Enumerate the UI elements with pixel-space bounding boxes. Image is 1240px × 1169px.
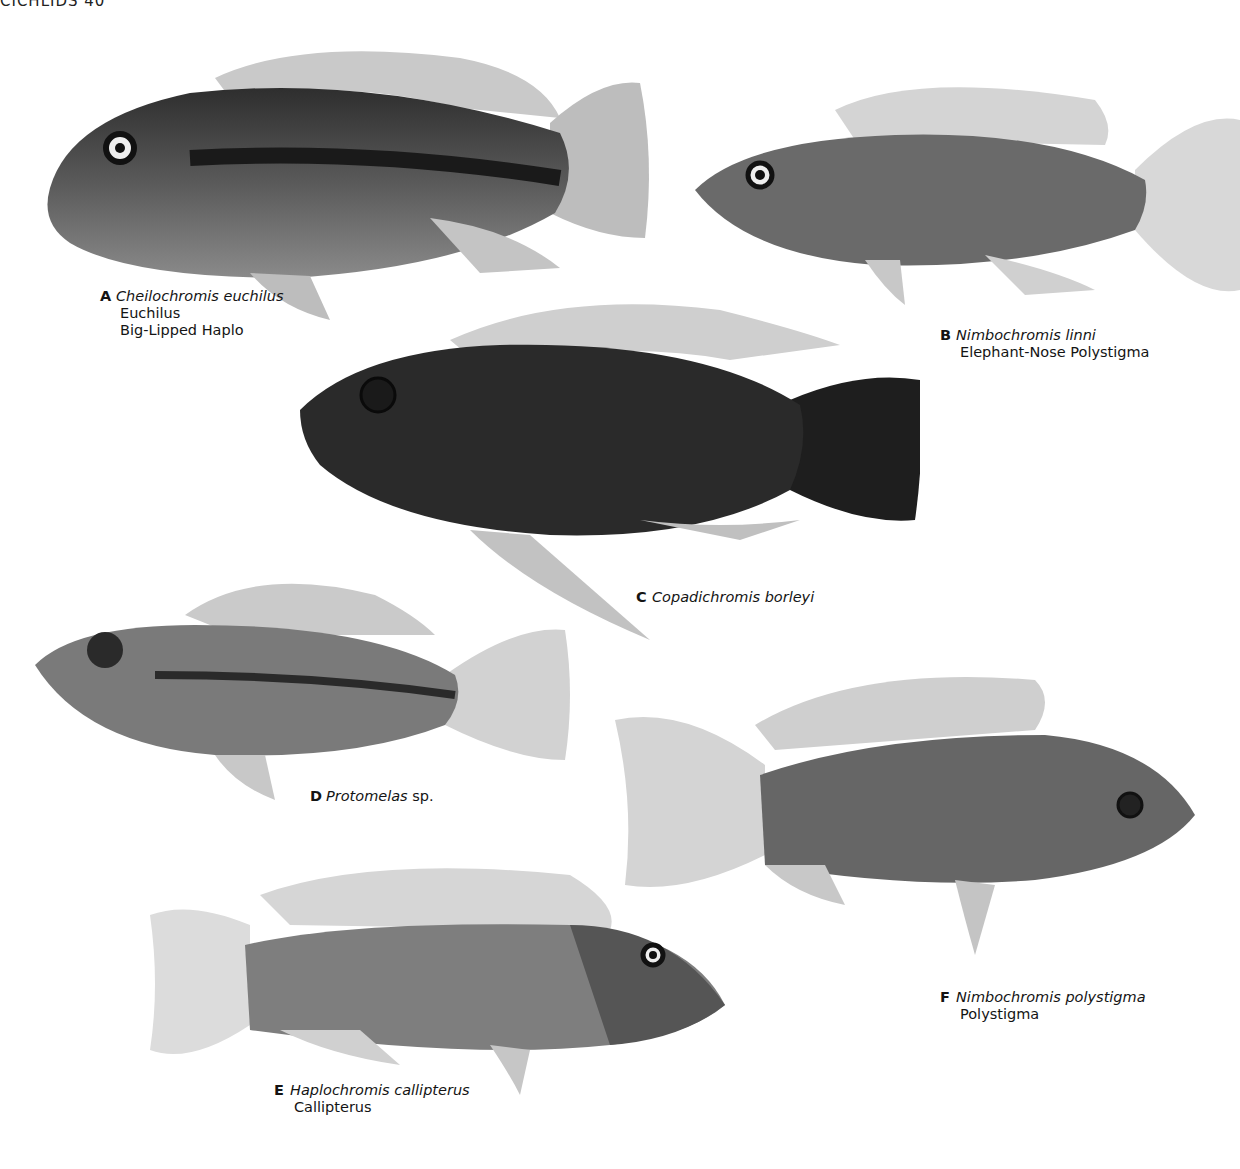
page-header: CICHLIDS 40	[0, 0, 105, 10]
plate-letter: E	[274, 1082, 290, 1099]
fish-illustration-b	[695, 70, 1240, 310]
scientific-name: Nimbochromis linni	[956, 327, 1096, 343]
common-name: Euchilus	[120, 305, 284, 322]
plate-letter: C	[636, 589, 652, 606]
caption-d: DProtomelas sp.	[330, 788, 434, 805]
plate-letter: F	[940, 989, 956, 1006]
caption-e: EHaplochromis callipterus Callipterus	[294, 1082, 470, 1116]
fish-illustration-a	[40, 38, 660, 328]
common-name: Polystigma	[960, 1006, 1146, 1023]
plate-letter: B	[940, 327, 956, 344]
fish-illustration-d	[35, 565, 575, 805]
scientific-name: Nimbochromis polystigma	[956, 989, 1146, 1005]
scientific-name: Cheilochromis euchilus	[116, 288, 284, 304]
caption-f: FNimbochromis polystigma Polystigma	[960, 989, 1146, 1023]
scientific-name: Haplochromis callipterus	[290, 1082, 470, 1098]
common-name: Callipterus	[294, 1099, 470, 1116]
plate-letter: D	[310, 788, 326, 805]
scientific-name: Copadichromis borleyi	[652, 589, 814, 605]
name-suffix: sp.	[408, 788, 434, 804]
plate-letter: A	[100, 288, 116, 305]
caption-a: ACheilochromis euchilus Euchilus Big-Lip…	[120, 288, 284, 339]
fish-illustration-f	[615, 655, 1200, 965]
caption-c: CCopadichromis borleyi	[656, 589, 814, 606]
common-name: Big-Lipped Haplo	[120, 322, 284, 339]
common-name: Elephant-Nose Polystigma	[960, 344, 1150, 361]
scientific-name: Protomelas	[326, 788, 408, 804]
caption-b: BNimbochromis linni Elephant-Nose Polyst…	[960, 327, 1150, 361]
